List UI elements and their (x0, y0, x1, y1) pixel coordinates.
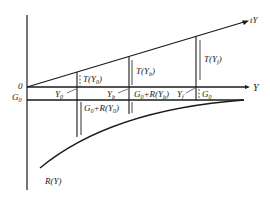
yb-label: Yb (107, 89, 115, 100)
y-axis-label: Y (253, 82, 260, 93)
yb-gap-label: G0+R(Yb) (134, 89, 169, 100)
origin-label: 0 (18, 81, 23, 91)
g0-axis-label: G0 (12, 92, 22, 103)
revenue-curve (40, 100, 244, 168)
yf-pointer (186, 88, 195, 93)
revenue-curve-label: R(Y) (44, 176, 62, 186)
yf-tax-label: T(Yf) (204, 54, 222, 65)
y0-label: Y0 (55, 89, 63, 100)
tax-revenue-diagram: Y 0 G0 tY R(Y) T(Y0) Y0 G0+R(Y0) T(Yb) Y… (0, 0, 270, 198)
yb-pointer (118, 89, 128, 93)
tax-line-arrow-icon (242, 21, 249, 26)
tax-line-label: tY (250, 15, 259, 25)
y0-pointer (67, 89, 76, 93)
y0-tax-label: T(Y0) (83, 74, 102, 85)
y0-gap-label: G0+R(Y0) (84, 103, 119, 114)
yf-label: Yf (177, 89, 185, 100)
yb-tax-label: T(Yb) (136, 66, 155, 77)
yf-gap-label: G0 (202, 89, 212, 100)
y-axis-arrow-icon (245, 85, 250, 89)
